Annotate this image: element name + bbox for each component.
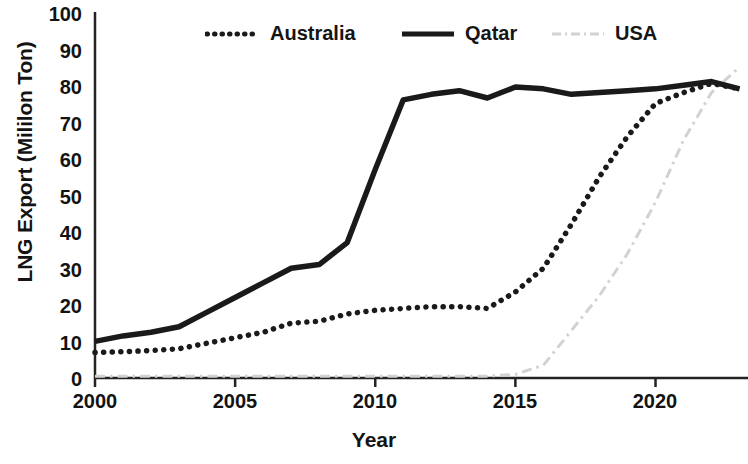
axis-lines [95,12,748,387]
series-line-australia [95,83,740,352]
data-series-layer [95,67,740,376]
series-line-usa [95,67,740,376]
plot-area [0,0,748,464]
lng-export-line-chart: LNG Export (Mililon Ton) Year 100 90 80 … [0,0,748,464]
